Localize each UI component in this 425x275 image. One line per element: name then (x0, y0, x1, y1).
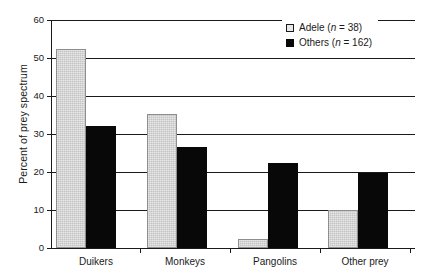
bar-monkeys-others (177, 147, 207, 248)
gridline-50 (52, 58, 415, 59)
y-tick-label-0: 0 (39, 243, 44, 253)
y-tick-label-60: 60 (33, 15, 44, 25)
legend-swatch-open-square-icon (286, 24, 294, 32)
y-tick-label-50: 50 (33, 53, 44, 63)
y-tick-label-10: 10 (33, 205, 44, 215)
y-tick-label-20: 20 (33, 167, 44, 177)
bar-monkeys-adele (147, 114, 177, 248)
bar-duikers-others (86, 126, 116, 248)
bar-pangolins-adele (238, 239, 268, 249)
legend-label-adele: Adele (n = 38) (299, 23, 362, 33)
legend-label-others: Others (n = 162) (299, 38, 372, 48)
y-tick-label-40: 40 (33, 91, 44, 101)
legend-item-adele: Adele (n = 38) (286, 23, 372, 33)
legend-swatch-filled-square-icon (286, 39, 294, 47)
x-tick-boundary-3 (320, 248, 321, 253)
plot-area: 60 50 40 30 20 10 0 Duikers Monkeys Pang… (52, 20, 415, 248)
legend-item-others: Others (n = 162) (286, 38, 372, 48)
x-tick-boundary-2 (230, 248, 231, 253)
x-tick-boundary-4 (410, 248, 411, 253)
bar-pangolins-others (268, 163, 298, 248)
y-axis-title: Percent of prey spectrum (14, 0, 32, 248)
chart-legend: Adele (n = 38) Others (n = 162) (282, 20, 378, 52)
x-tick-boundary-1 (140, 248, 141, 253)
bar-duikers-adele (56, 49, 86, 249)
x-axis-label-duikers: Duikers (79, 256, 113, 267)
x-axis-label-pangolins: Pangolins (253, 256, 297, 267)
x-axis-label-other-prey: Other prey (341, 256, 388, 267)
gridline-40 (52, 96, 415, 97)
bar-chart-figure: Percent of prey spectrum 60 50 40 30 20 … (0, 0, 425, 275)
x-axis-line (51, 248, 415, 249)
y-tick-label-30: 30 (33, 129, 44, 139)
bar-other-prey-others (358, 173, 388, 248)
x-axis-label-monkeys: Monkeys (165, 256, 205, 267)
bar-other-prey-adele (328, 210, 358, 248)
